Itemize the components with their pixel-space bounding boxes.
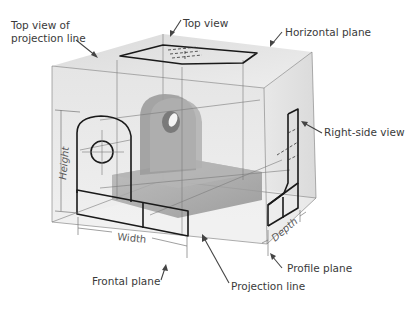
- label-projection-line: Projection line: [231, 280, 305, 292]
- label-frontal-plane: Frontal plane: [92, 275, 160, 287]
- label-top-view-of-projection-line-1: Top view of: [10, 19, 70, 31]
- label-top-view-of-projection-line-2: projection line: [11, 32, 86, 44]
- label-right-side-view: Right-side view: [324, 126, 405, 138]
- label-profile-plane: Profile plane: [287, 262, 352, 274]
- label-top-view: Top view: [182, 17, 229, 29]
- label-horizontal-plane: Horizontal plane: [285, 26, 371, 38]
- width-label: Width: [117, 231, 147, 245]
- glass-box-diagram: Height Width Depth Top view of proje: [0, 0, 415, 311]
